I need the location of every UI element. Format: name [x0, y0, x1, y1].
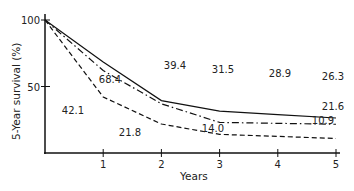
data-label: 21.6 — [322, 101, 344, 112]
data-label: 68.4 — [99, 74, 121, 85]
data-label: 31.5 — [212, 64, 234, 75]
x-tick-label: 3 — [216, 159, 222, 170]
series-dashed — [45, 20, 336, 139]
survival-chart: 1234510050 68.439.431.528.926.321.642.12… — [0, 0, 354, 191]
series-solid — [45, 20, 336, 118]
y-axis-label: 5-Year survival (%) — [10, 43, 22, 140]
x-tick-label: 5 — [333, 159, 339, 170]
data-label: 39.4 — [164, 60, 186, 71]
x-axis-label: Years — [179, 170, 208, 182]
x-tick-label: 2 — [158, 159, 164, 170]
data-label: 26.3 — [322, 71, 344, 82]
data-label: 10.9 — [312, 115, 334, 126]
x-tick-label: 4 — [275, 159, 281, 170]
x-tick-label: 1 — [100, 159, 106, 170]
axis-ticks: 1234510050 — [21, 15, 339, 170]
data-label: 21.8 — [119, 127, 141, 138]
y-tick-label: 50 — [27, 82, 40, 93]
data-label: 14.0 — [202, 123, 224, 134]
y-tick-label: 100 — [21, 15, 40, 26]
data-label: 42.1 — [62, 105, 84, 116]
data-label: 28.9 — [269, 68, 291, 79]
series-dash-dot — [45, 20, 336, 124]
axes — [44, 14, 340, 154]
series-lines — [45, 20, 336, 139]
